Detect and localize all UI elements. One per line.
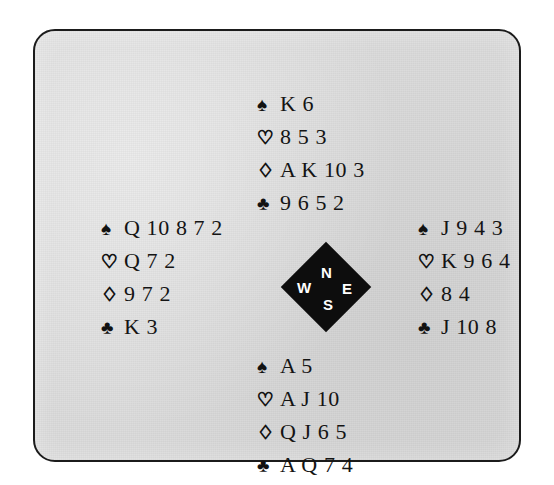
north-spades-row: ♠ K 6	[257, 87, 365, 120]
east-spades-row: ♠ J 9 4 3	[418, 211, 511, 244]
diamond-icon: ♢	[418, 278, 441, 311]
west-hearts-row: ♡ Q 7 2	[101, 244, 223, 277]
east-hand: ♠ J 9 4 3 ♡ K 9 6 4 ♢ 8 4 ♣ J 10 8	[418, 211, 511, 343]
heart-icon: ♡	[257, 383, 280, 416]
south-spades-row: ♠ A 5	[257, 349, 353, 382]
west-hearts-holding: Q 7 2	[124, 244, 176, 277]
south-hearts-row: ♡ A J 10	[257, 382, 353, 415]
south-clubs-row: ♣ A Q 7 4	[257, 448, 353, 481]
west-clubs-holding: K 3	[124, 310, 158, 343]
south-hearts-holding: A J 10	[280, 382, 340, 415]
east-clubs-holding: J 10 8	[441, 310, 497, 343]
compass-label-west: W	[297, 280, 311, 295]
east-clubs-row: ♣ J 10 8	[418, 310, 511, 343]
club-icon: ♣	[257, 449, 280, 482]
club-icon: ♣	[101, 311, 124, 344]
compass-label-north: N	[321, 265, 332, 280]
north-hearts-row: ♡ 8 5 3	[257, 120, 365, 153]
diamond-icon: ♢	[257, 416, 280, 449]
heart-icon: ♡	[257, 121, 280, 154]
north-hearts-holding: 8 5 3	[280, 120, 327, 153]
compass-rose: N W E S	[285, 248, 367, 326]
club-icon: ♣	[257, 187, 280, 220]
west-hand: ♠ Q 10 8 7 2 ♡ Q 7 2 ♢ 9 7 2 ♣ K 3	[101, 211, 223, 343]
south-clubs-holding: A Q 7 4	[280, 448, 353, 481]
bridge-deal-diagram: ♠ K 6 ♡ 8 5 3 ♢ A K 10 3 ♣ 9 6 5 2 ♠ Q 1…	[0, 0, 554, 485]
west-spades-holding: Q 10 8 7 2	[124, 211, 223, 244]
spade-icon: ♠	[257, 350, 280, 383]
west-diamonds-holding: 9 7 2	[124, 277, 171, 310]
west-diamonds-row: ♢ 9 7 2	[101, 277, 223, 310]
south-diamonds-holding: Q J 6 5	[280, 415, 347, 448]
compass-label-east: E	[342, 281, 352, 296]
spade-icon: ♠	[257, 88, 280, 121]
north-spades-holding: K 6	[280, 87, 314, 120]
diamond-icon: ♢	[101, 278, 124, 311]
east-diamonds-row: ♢ 8 4	[418, 277, 511, 310]
spade-icon: ♠	[101, 212, 124, 245]
west-clubs-row: ♣ K 3	[101, 310, 223, 343]
heart-icon: ♡	[418, 245, 441, 278]
south-diamonds-row: ♢ Q J 6 5	[257, 415, 353, 448]
north-diamonds-holding: A K 10 3	[280, 153, 365, 186]
east-diamonds-holding: 8 4	[441, 277, 470, 310]
north-clubs-holding: 9 6 5 2	[280, 186, 345, 219]
diamond-icon: ♢	[257, 154, 280, 187]
south-hand: ♠ A 5 ♡ A J 10 ♢ Q J 6 5 ♣ A Q 7 4	[257, 349, 353, 481]
east-hearts-holding: K 9 6 4	[441, 244, 511, 277]
south-spades-holding: A 5	[280, 349, 313, 382]
deal-panel: ♠ K 6 ♡ 8 5 3 ♢ A K 10 3 ♣ 9 6 5 2 ♠ Q 1…	[33, 29, 521, 462]
north-diamonds-row: ♢ A K 10 3	[257, 153, 365, 186]
east-spades-holding: J 9 4 3	[441, 211, 503, 244]
north-clubs-row: ♣ 9 6 5 2	[257, 186, 365, 219]
compass-label-south: S	[323, 297, 333, 312]
compass-diamond-shape	[281, 242, 372, 333]
north-hand: ♠ K 6 ♡ 8 5 3 ♢ A K 10 3 ♣ 9 6 5 2	[257, 87, 365, 219]
club-icon: ♣	[418, 311, 441, 344]
west-spades-row: ♠ Q 10 8 7 2	[101, 211, 223, 244]
east-hearts-row: ♡ K 9 6 4	[418, 244, 511, 277]
heart-icon: ♡	[101, 245, 124, 278]
spade-icon: ♠	[418, 212, 441, 245]
